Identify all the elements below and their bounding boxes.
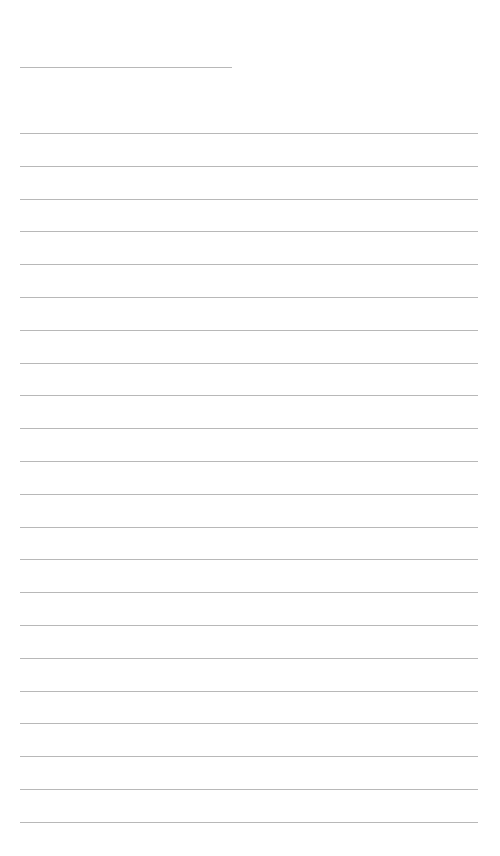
ruled-writing-line — [20, 559, 478, 560]
ruled-writing-line — [20, 428, 478, 429]
ruled-writing-line — [20, 330, 478, 331]
ruled-writing-line — [20, 133, 478, 134]
ruled-writing-line — [20, 494, 478, 495]
ruled-writing-line — [20, 592, 478, 593]
ruled-writing-line — [20, 199, 478, 200]
ruled-writing-line — [20, 395, 478, 396]
ruled-writing-line — [20, 756, 478, 757]
ruled-writing-line — [20, 363, 478, 364]
ruled-writing-line — [20, 297, 478, 298]
ruled-writing-line — [20, 822, 478, 823]
title-writing-line — [20, 67, 232, 68]
ruled-writing-line — [20, 625, 478, 626]
lined-page — [0, 0, 500, 856]
ruled-writing-line — [20, 691, 478, 692]
ruled-writing-line — [20, 789, 478, 790]
ruled-writing-line — [20, 658, 478, 659]
ruled-writing-line — [20, 231, 478, 232]
ruled-writing-line — [20, 166, 478, 167]
ruled-writing-line — [20, 723, 478, 724]
ruled-writing-line — [20, 461, 478, 462]
ruled-writing-line — [20, 264, 478, 265]
ruled-writing-line — [20, 527, 478, 528]
